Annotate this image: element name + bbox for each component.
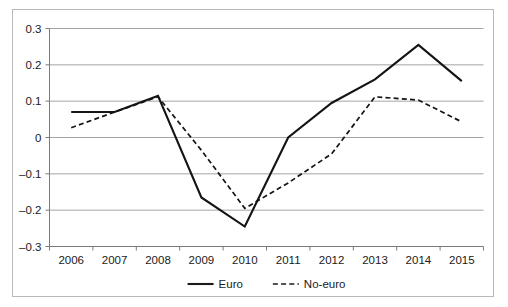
x-tick-label: 2008	[145, 254, 171, 266]
y-tick-label: 0.2	[26, 59, 42, 71]
y-tick-label: 0.3	[26, 23, 42, 35]
x-tick-label: 2011	[276, 254, 301, 266]
y-tick-labels: 0.30.20.10–0.1–0.2–0.3	[19, 23, 41, 253]
y-tick-label: –0.3	[19, 241, 41, 253]
x-tick-label: 2009	[189, 254, 215, 266]
x-tick-label: 2007	[102, 254, 128, 266]
x-tick-label: 2014	[406, 254, 432, 266]
chart-legend: EuroNo-euro	[188, 278, 346, 290]
line-chart-canvas: 0.30.20.10–0.1–0.2–0.3 20062007200820092…	[0, 0, 508, 307]
y-tick-label: 0	[35, 132, 41, 144]
y-gridlines	[50, 29, 484, 247]
series-line-no-euro	[71, 97, 462, 209]
legend-label-no-euro: No-euro	[304, 278, 346, 290]
x-tick-label: 2010	[232, 254, 258, 266]
series-lines	[71, 45, 462, 227]
x-tick-marks	[46, 29, 484, 251]
y-tick-label: –0.2	[19, 204, 41, 216]
chart-figure: 0.30.20.10–0.1–0.2–0.3 20062007200820092…	[0, 0, 508, 307]
y-tick-label: 0.1	[26, 95, 42, 107]
legend-label-euro: Euro	[219, 278, 243, 290]
series-line-euro	[71, 45, 462, 227]
x-tick-label: 2006	[58, 254, 84, 266]
x-tick-label: 2015	[449, 254, 475, 266]
x-tick-label: 2013	[362, 254, 388, 266]
x-tick-label: 2012	[319, 254, 345, 266]
x-tick-labels: 2006200720082009201020112012201320142015	[58, 254, 474, 266]
y-tick-label: –0.1	[19, 168, 41, 180]
